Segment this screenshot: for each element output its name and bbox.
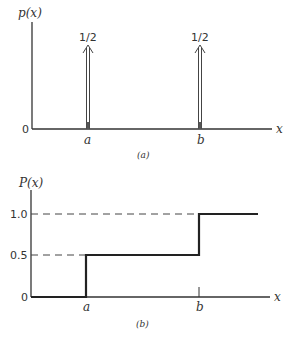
impulse-b-weight: 1/2: [191, 31, 209, 44]
panel-a-zero-label: 0: [22, 123, 29, 136]
panel-b-tick-a: a: [83, 300, 90, 314]
panel-b: P(x) 1.0 0.5 0 x a b (b): [10, 176, 281, 329]
panel-a-tick-b: b: [197, 133, 205, 147]
panel-a-caption: (a): [137, 150, 150, 160]
cdf-step-line: [31, 214, 258, 297]
panel-a-xlabel: x: [276, 122, 283, 136]
panel-b-y-half-label: 0.5: [10, 249, 28, 262]
panel-b-y-one-label: 1.0: [10, 208, 28, 221]
impulse-a-weight: 1/2: [79, 31, 97, 44]
panel-a-tick-a: a: [84, 133, 91, 147]
panel-b-zero-label: 0: [21, 291, 28, 304]
panel-b-xlabel: x: [274, 290, 281, 304]
panel-a-ylabel: p(x): [18, 6, 42, 20]
impulse-a-icon: [83, 45, 93, 129]
impulse-b-icon: [195, 45, 205, 129]
panel-a: p(x) 0 x 1/2 a 1/2 b (a): [18, 6, 283, 160]
panel-b-tick-b: b: [196, 300, 204, 314]
panel-b-ylabel: P(x): [18, 176, 44, 190]
panel-b-caption: (b): [136, 319, 149, 329]
figure: p(x) 0 x 1/2 a 1/2 b (a) P(x) 1.0 0.5: [0, 0, 299, 341]
